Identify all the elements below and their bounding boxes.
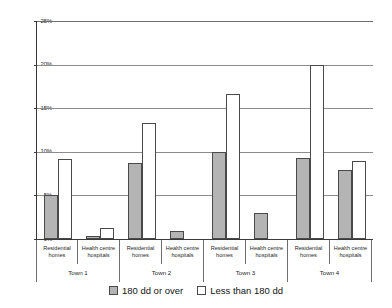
category-label: Residentialhomes	[288, 240, 330, 264]
category-label-line: homes	[216, 252, 233, 260]
category-label-line: Residential	[43, 245, 71, 253]
category-label-line: Health centre	[166, 245, 199, 253]
bar-over	[296, 158, 310, 239]
category-label: Health centrehospitals	[246, 240, 288, 264]
y-tick-mark	[34, 195, 37, 196]
category-label-line: Health centre	[82, 245, 115, 253]
legend-label: 180 dd or over	[122, 285, 183, 296]
y-tick-mark	[34, 152, 37, 153]
category-label-line: hospitals	[255, 252, 277, 260]
category-label-line: hospitals	[339, 252, 361, 260]
bar-over	[128, 163, 142, 239]
category-label-line: hospitals	[87, 252, 109, 260]
bar-under	[226, 94, 240, 239]
group-label: Town 2	[120, 264, 204, 282]
gridline-25	[37, 21, 373, 22]
group-label: Town 4	[288, 264, 372, 282]
category-label: Residentialhomes	[120, 240, 162, 264]
category-label-line: Health centre	[334, 245, 367, 253]
bar-under	[142, 123, 156, 239]
category-label-line: homes	[132, 252, 149, 260]
category-label-line: homes	[49, 252, 66, 260]
legend-item-under: Less than 180 dd	[197, 285, 283, 296]
bar-over	[170, 231, 184, 239]
legend-item-over: 180 dd or over	[109, 285, 183, 296]
bar-under	[100, 228, 114, 239]
y-tick-mark	[34, 108, 37, 109]
plot-area	[36, 21, 373, 240]
bar-over	[254, 213, 268, 239]
category-label-line: hospitals	[171, 252, 193, 260]
y-tick-mark	[34, 65, 37, 66]
category-label: Health centrehospitals	[330, 240, 372, 264]
bar-over	[212, 152, 226, 239]
category-label-line: Residential	[211, 245, 239, 253]
bar-over	[86, 236, 100, 239]
group-label: Town 1	[36, 264, 120, 282]
group-label: Town 3	[204, 264, 288, 282]
bar-under	[310, 65, 324, 239]
legend-label: Less than 180 dd	[210, 285, 283, 296]
y-tick-mark	[34, 21, 37, 22]
category-label: Residentialhomes	[36, 240, 78, 264]
chart-legend: 180 dd or over Less than 180 dd	[0, 285, 392, 296]
bar-under	[58, 159, 72, 239]
bar-over	[44, 195, 58, 239]
category-label-line: Residential	[127, 245, 155, 253]
group-axis: Town 1Town 2Town 3Town 4	[36, 264, 372, 282]
bar-chart: 25% 20% 15% 10% 5% 0% ResidentialhomesHe…	[0, 0, 392, 308]
category-label-line: Health centre	[250, 245, 283, 253]
category-label-line: Residential	[295, 245, 323, 253]
bar-over	[338, 170, 352, 239]
bar-under	[352, 161, 366, 239]
legend-swatch-icon	[197, 286, 206, 295]
legend-swatch-icon	[109, 286, 118, 295]
category-label: Residentialhomes	[204, 240, 246, 264]
category-label: Health centrehospitals	[162, 240, 204, 264]
category-label: Health centrehospitals	[78, 240, 120, 264]
category-axis: ResidentialhomesHealth centrehospitalsRe…	[36, 240, 372, 264]
category-label-line: homes	[300, 252, 317, 260]
